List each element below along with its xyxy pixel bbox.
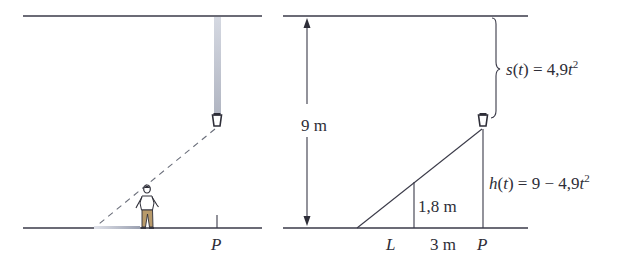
distance-label: 3 m [430, 235, 456, 254]
lamp-icon [213, 113, 222, 126]
point-p-label-left: P [210, 235, 221, 254]
height-label: 9 m [301, 116, 327, 135]
fall-distance-formula: s(t) = 4,9t2 [506, 58, 578, 79]
fall-motion-streak [214, 17, 221, 114]
left-panel: P [23, 16, 262, 254]
right-panel: 9 m 1,8 m s(t) = 4,9t2 h(t) = 9 − 4,9t2 … [283, 16, 590, 254]
height-function-formula: h(t) = 9 − 4,9t2 [489, 172, 590, 193]
point-p-label-right: P [476, 235, 487, 254]
fall-distance-brace [491, 18, 500, 118]
person-icon [136, 185, 159, 228]
falling-lamp-diagram: P 9 m 1,8 m s(t) = 4,9t2 [0, 0, 640, 264]
person-height-label: 1,8 m [418, 197, 457, 216]
shadow [94, 226, 140, 229]
shadow-point-label: L [385, 235, 395, 254]
dashed-light-ray [94, 129, 215, 228]
lamp-icon [479, 113, 488, 126]
